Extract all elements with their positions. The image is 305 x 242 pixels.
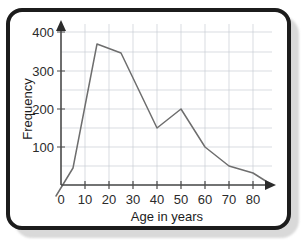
data-series-frequency bbox=[56, 44, 272, 196]
x-tick-label: 30 bbox=[126, 192, 140, 207]
y-tick-label: 200 bbox=[32, 102, 54, 117]
horizontal-gridlines bbox=[61, 32, 272, 185]
x-tick-label: 50 bbox=[174, 192, 188, 207]
x-tick-label: 0 bbox=[57, 192, 64, 207]
x-tick-label: 60 bbox=[198, 192, 212, 207]
x-tick-label: 40 bbox=[150, 192, 164, 207]
x-tick-label: 70 bbox=[222, 192, 236, 207]
x-tick-label: 10 bbox=[78, 192, 92, 207]
x-tick-labels: 0 10 20 30 40 50 60 70 80 bbox=[57, 192, 260, 207]
y-tick-labels: 400 300 200 100 bbox=[32, 25, 54, 155]
y-axis-title: Frequency bbox=[20, 78, 35, 140]
x-tick-label: 80 bbox=[246, 192, 260, 207]
chart-card: 400 300 200 100 0 10 20 30 40 50 60 70 8… bbox=[6, 8, 291, 230]
x-axis-title: Age in years bbox=[131, 209, 204, 224]
y-axis bbox=[56, 20, 66, 185]
y-tick-label: 400 bbox=[32, 25, 54, 40]
screenshot-root: 400 300 200 100 0 10 20 30 40 50 60 70 8… bbox=[0, 0, 305, 242]
y-tick-label: 300 bbox=[32, 64, 54, 79]
frequency-polygon-chart: 400 300 200 100 0 10 20 30 40 50 60 70 8… bbox=[10, 12, 287, 226]
x-tick-label: 20 bbox=[102, 192, 116, 207]
y-tick-label: 100 bbox=[32, 140, 54, 155]
chart-plot-area: 400 300 200 100 0 10 20 30 40 50 60 70 8… bbox=[10, 12, 287, 226]
x-axis bbox=[61, 180, 276, 190]
